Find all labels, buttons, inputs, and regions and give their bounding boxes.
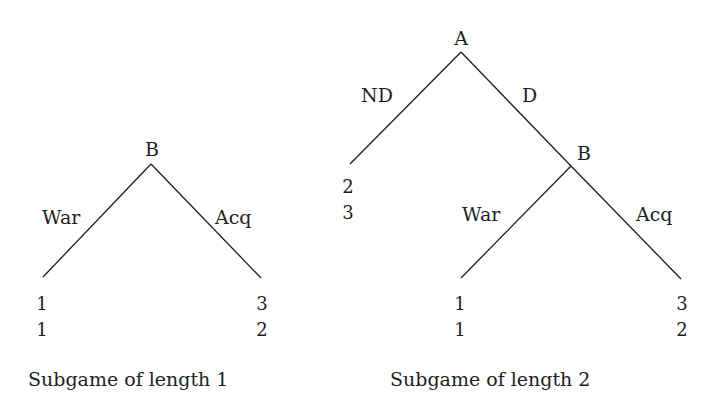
right-war-payoff-b: 1 — [450, 318, 470, 341]
right-node-a: A — [454, 27, 468, 49]
right-acq-label: Acq — [636, 203, 673, 225]
right-war-label: War — [462, 203, 500, 225]
right-acq-payoff-b: 2 — [672, 318, 692, 341]
left-war-payoff-a: 1 — [32, 292, 52, 315]
right-d-branch — [461, 52, 571, 166]
left-acq-payoff-b: 2 — [252, 318, 272, 341]
left-acq-payoff-a: 3 — [252, 292, 272, 315]
left-node-b: B — [145, 138, 159, 160]
right-acq-payoff-a: 3 — [672, 292, 692, 315]
left-war-payoff-b: 1 — [32, 318, 52, 341]
right-d-label: D — [522, 84, 537, 106]
left-acq-label: Acq — [215, 206, 252, 228]
right-nd-payoff-b: 3 — [338, 201, 358, 224]
right-nd-payoff-a: 2 — [338, 175, 358, 198]
left-caption: Subgame of length 1 — [28, 368, 228, 390]
right-caption: Subgame of length 2 — [390, 368, 590, 390]
left-war-label: War — [42, 206, 80, 228]
right-nd-label: ND — [361, 84, 393, 106]
right-war-payoff-a: 1 — [450, 292, 470, 315]
right-node-b: B — [577, 142, 591, 164]
right-nd-branch — [350, 52, 461, 164]
